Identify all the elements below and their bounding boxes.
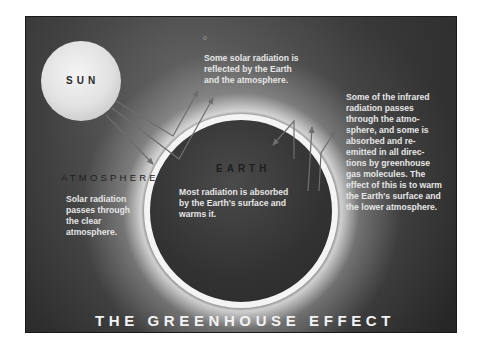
infrared-caption: Some of the infrared radiation passes th… — [346, 92, 456, 213]
incoming-ray — [106, 115, 153, 164]
reflected-caption: Some solar radiation is reflected by the… — [204, 53, 334, 86]
sun-label: SUN — [66, 75, 99, 86]
absorbed-caption: Most radiation is absorbed by the Earth'… — [179, 187, 309, 220]
reflected-ray-1 — [116, 91, 198, 136]
greenhouse-diagram: o SUN EARTH ATMOSPHERE Some solar radiat… — [25, 16, 457, 333]
marker-dot: o — [203, 34, 207, 41]
earth-label: EARTH — [216, 163, 270, 174]
diagram-title: THE GREENHOUSE EFFECT — [26, 312, 456, 329]
infrared-ray-2 — [308, 127, 312, 191]
solar-caption: Solar radiation passes through the clear… — [66, 194, 156, 238]
atmosphere-label: ATMOSPHERE — [61, 172, 159, 183]
